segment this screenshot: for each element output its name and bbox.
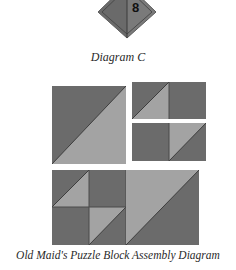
diamond-shape-icon [98,0,156,40]
small-unit-top [132,82,206,119]
diamond-label: 8 [132,0,139,15]
diagram-c-caption: Diagram C [0,50,236,65]
bottom-row-assembly [52,170,199,245]
assembly-diagram-caption: Old Maid's Puzzle Block Assembly Diagram [0,249,236,261]
small-unit-bottom [132,123,206,161]
diamond-piece-8: 8 [98,0,156,40]
large-half-square-triangle [52,86,126,164]
